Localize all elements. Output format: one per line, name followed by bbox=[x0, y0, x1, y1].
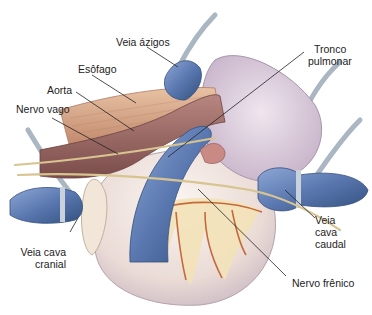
label-veia-cava-caudal-line2: cava bbox=[315, 226, 346, 238]
label-veia-cava-cranial-line2: cranial bbox=[10, 258, 66, 270]
label-aorta: Aorta bbox=[47, 84, 72, 96]
label-tronco-pulmonar-line1: Tronco bbox=[308, 43, 352, 55]
caudal-vena-cava bbox=[258, 168, 368, 211]
label-tronco-pulmonar-line2: pulmonar bbox=[308, 55, 352, 67]
ligature-left bbox=[60, 187, 65, 222]
label-esofago: Esôfago bbox=[78, 63, 117, 75]
label-nervo-frenico: Nervo frênico bbox=[292, 277, 354, 289]
anatomy-figure: Veia ázigos Esôfago Aorta Nervo vago Tro… bbox=[0, 0, 372, 315]
label-veia-azigos: Veia ázigos bbox=[116, 36, 170, 48]
label-tronco-pulmonar: Tronco pulmonar bbox=[308, 43, 352, 67]
label-veia-cava-caudal: Veia cava caudal bbox=[315, 214, 346, 250]
label-nervo-vago: Nervo vago bbox=[16, 103, 70, 115]
cranial-vena-cava-stump bbox=[10, 187, 83, 223]
label-veia-cava-caudal-line1: Veia bbox=[315, 214, 346, 226]
label-veia-cava-cranial-line1: Veia cava bbox=[10, 246, 66, 258]
label-veia-cava-cranial: Veia cava cranial bbox=[10, 246, 66, 270]
label-veia-cava-caudal-line3: caudal bbox=[315, 238, 346, 250]
